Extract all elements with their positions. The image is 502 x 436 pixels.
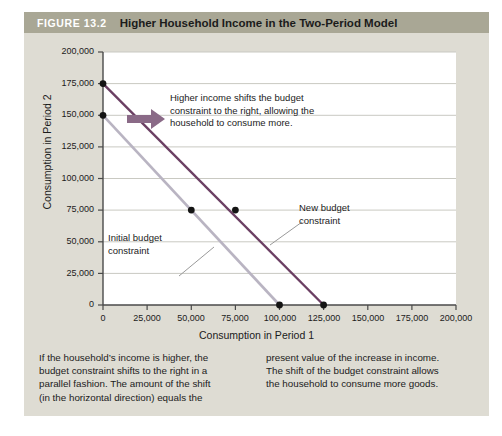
caption-left-line-2: budget constraint shifts to the right in…	[39, 364, 252, 377]
y-axis-title: Consumption in Period 2	[41, 82, 53, 222]
marker-initial-mid	[188, 207, 195, 214]
initial-constraint-line-1: Initial budget	[108, 232, 203, 245]
x-axis-title: Consumption in Period 1	[24, 329, 489, 341]
marker-initial-intercept-y	[100, 112, 107, 119]
shift-note-line-1: Higher income shifts the budget	[170, 92, 365, 105]
new-constraint-line-1: New budget	[299, 202, 394, 215]
caption-right-line-2: The shift of the budget constraint allow…	[266, 364, 476, 377]
shift-note-line-3: household to consume more.	[170, 117, 365, 130]
caption-right-line-3: the household to consume more goods.	[266, 377, 476, 390]
figure-panel: FIGURE 13.2 Higher Household Income in t…	[24, 12, 489, 416]
caption-left-line-4: (in the horizontal direction) equals the	[39, 391, 252, 404]
y-tick-label-200000: 200,000	[32, 46, 94, 56]
shift-note-annotation: Higher income shifts the budget constrai…	[170, 92, 365, 130]
x-tick-label-50000: 50,000	[166, 313, 216, 323]
x-tick-label-0: 0	[83, 313, 123, 323]
figure-title: Higher Household Income in the Two-Perio…	[120, 17, 398, 29]
x-tick-label-200000: 200,000	[429, 313, 483, 323]
marker-initial-intercept-x	[276, 302, 283, 309]
y-tick-label-0: 0	[32, 299, 94, 309]
caption-left-line-3: parallel fashion. The amount of the shif…	[39, 377, 252, 390]
caption-column-left: If the household’s income is higher, the…	[39, 351, 252, 416]
y-tick-label-75000: 75,000	[32, 204, 94, 214]
marker-new-intercept-x	[320, 302, 327, 309]
caption-column-right: present value of the increase in income.…	[266, 351, 476, 416]
x-tick-label-25000: 25,000	[122, 313, 172, 323]
y-tick-marks	[98, 52, 103, 305]
figure-header-bar: FIGURE 13.2 Higher Household Income in t…	[24, 12, 489, 33]
y-tick-label-125000: 125,000	[32, 141, 94, 151]
y-tick-label-25000: 25,000	[32, 268, 94, 278]
caption-right-line-1: present value of the increase in income.	[266, 351, 476, 364]
y-tick-label-100000: 100,000	[32, 173, 94, 183]
new-constraint-annotation: New budget constraint	[299, 202, 394, 227]
chart-area: Consumption in Period 2 200,000 175,000 …	[24, 33, 489, 351]
figure-root: FIGURE 13.2 Higher Household Income in t…	[0, 0, 502, 436]
y-tick-label-50000: 50,000	[32, 236, 94, 246]
marker-new-intercept-y	[100, 80, 107, 87]
marker-new-mid	[232, 207, 239, 214]
shift-note-line-2: constraint to the right, allowing the	[170, 105, 365, 118]
y-tick-label-150000: 150,000	[32, 109, 94, 119]
y-tick-label-175000: 175,000	[32, 78, 94, 88]
initial-constraint-line-2: constraint	[108, 245, 203, 258]
initial-constraint-annotation: Initial budget constraint	[108, 232, 203, 257]
figure-number-label: FIGURE 13.2	[37, 17, 107, 29]
caption-left-line-1: If the household’s income is higher, the	[39, 351, 252, 364]
new-constraint-line-2: constraint	[299, 215, 394, 228]
figure-caption: If the household’s income is higher, the…	[24, 351, 489, 416]
